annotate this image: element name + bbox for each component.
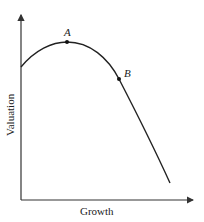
y-axis-label: Valuation (4, 93, 16, 136)
valuation-growth-chart: A B Growth Valuation (0, 0, 204, 222)
point-a-label: A (63, 26, 71, 38)
point-a (65, 40, 69, 44)
point-b (117, 77, 121, 81)
valuation-curve (21, 42, 170, 183)
point-b-label: B (124, 67, 131, 79)
x-axis-label: Growth (80, 205, 114, 217)
